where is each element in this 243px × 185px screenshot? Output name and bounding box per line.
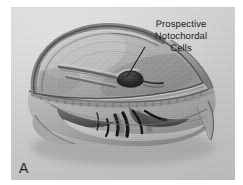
illustration-plate: Prospective Notochordal Cells A (11, 7, 235, 180)
figure-panel: Prospective Notochordal Cells A (0, 0, 243, 185)
callout-line-1: Prospective (139, 19, 223, 31)
callout-line-2: Notochordal (139, 31, 223, 43)
panel-letter: A (19, 161, 29, 175)
notochord-callout-label: Prospective Notochordal Cells (139, 19, 223, 55)
callout-line-3: Cells (139, 43, 223, 55)
